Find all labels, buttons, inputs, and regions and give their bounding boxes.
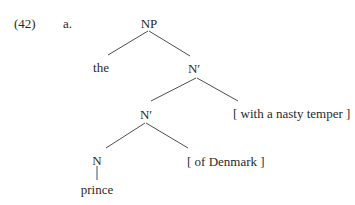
edge-nbar-upper-adjunct [197,78,238,101]
node-det-the: the [93,61,109,75]
node-n: N [92,154,101,168]
edge-np-nbar-upper [149,31,190,56]
node-complement-pp: [ of Denmark ] [187,155,265,169]
node-nbar-upper: N′ [188,62,200,76]
tree-edges [0,0,355,205]
node-np: NP [141,17,158,31]
edge-nbar-lower-complement [146,123,188,148]
node-terminal-prince: prince [81,183,113,197]
edge-np-the [108,31,148,55]
node-adjunct-pp: [ with a nasty temper ] [233,107,350,121]
edge-nbar-upper-nbar-lower [151,78,196,101]
edge-nbar-lower-n [106,123,145,148]
node-nbar-lower: N′ [140,108,152,122]
